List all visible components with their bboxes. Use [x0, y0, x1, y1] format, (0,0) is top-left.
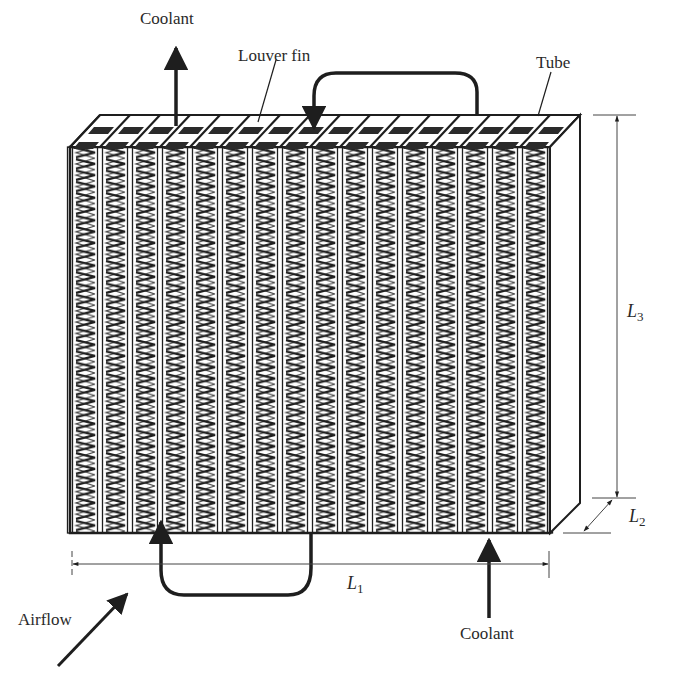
tube — [278, 147, 283, 533]
L1-subscript: 1 — [357, 581, 364, 596]
L2-label: L2 — [629, 507, 646, 528]
core-front-face — [68, 147, 553, 533]
tube — [218, 147, 223, 533]
L3-label: L3 — [627, 302, 644, 323]
airflow-label: Airflow — [18, 611, 72, 628]
core-top-face — [70, 115, 580, 149]
tube — [188, 147, 193, 533]
tube — [488, 147, 493, 533]
tube — [368, 147, 373, 533]
tube — [158, 147, 163, 533]
tube — [338, 147, 343, 533]
tube-label: Tube — [536, 54, 570, 71]
louver-fin-label: Louver fin — [238, 47, 310, 64]
tube — [248, 147, 253, 533]
core-side-face — [550, 115, 580, 533]
tube — [398, 147, 403, 533]
coolant-in-label: Coolant — [460, 625, 514, 642]
L2-subscript: 2 — [639, 514, 646, 529]
tube — [518, 147, 523, 533]
L3-subscript: 3 — [637, 309, 644, 324]
L3-symbol: L — [627, 301, 637, 321]
radiator-diagram — [0, 0, 673, 693]
tube — [428, 147, 433, 533]
coolant-out-label: Coolant — [140, 10, 194, 27]
L2-symbol: L — [629, 506, 639, 526]
tube — [128, 147, 133, 533]
louver-fin-leader — [258, 60, 276, 122]
tube — [308, 147, 313, 533]
tube — [458, 147, 463, 533]
tube-leader — [538, 72, 551, 116]
L1-symbol: L — [347, 573, 357, 593]
L1-label: L1 — [347, 574, 364, 595]
tube — [98, 147, 103, 533]
airflow-arrow — [58, 594, 127, 666]
